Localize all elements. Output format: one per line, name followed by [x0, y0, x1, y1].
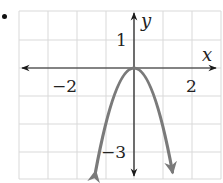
tick-label-x-neg2: −2	[52, 76, 77, 96]
x-axis-label: x	[202, 44, 212, 65]
tick-label-y-1: 1	[116, 30, 127, 50]
tick-label-y-neg3: −3	[101, 142, 126, 162]
tick-label-x-2: 2	[186, 76, 197, 96]
y-axis-label: y	[140, 10, 152, 31]
parabola-graph: y x 1 −2 2 −3	[0, 0, 223, 183]
